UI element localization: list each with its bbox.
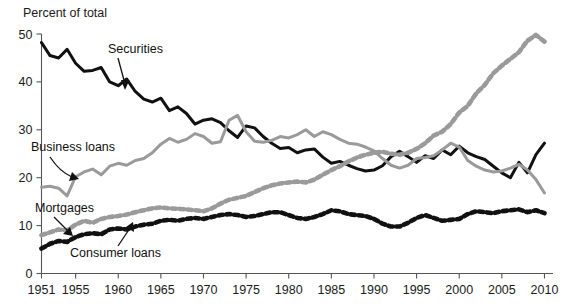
- series-label-consumer-loans: Consumer loans: [70, 246, 161, 260]
- x-tick-label: 1995: [403, 283, 431, 297]
- x-tick-label: 2005: [488, 283, 516, 297]
- x-tick-label: 1975: [232, 283, 260, 297]
- y-tick-label: 30: [19, 123, 33, 137]
- x-tick-label: 1980: [275, 283, 303, 297]
- y-tick-label: 40: [19, 75, 33, 89]
- chart-background: [0, 0, 568, 308]
- y-axis-title: Percent of total: [23, 6, 107, 20]
- series-label-securities: Securities: [108, 42, 163, 56]
- series-label-business-loans: Business loans: [31, 140, 115, 154]
- x-tick-label: 1960: [104, 283, 132, 297]
- y-tick-label: 10: [19, 219, 33, 233]
- series-label-mortgages: Mortgages: [35, 201, 94, 215]
- chart-container: 01020304050 1951195519601965197019751980…: [0, 0, 568, 308]
- y-tick-label: 0: [26, 267, 33, 281]
- x-tick-label: 1990: [360, 283, 388, 297]
- x-tick-label: 1970: [190, 283, 218, 297]
- x-tick-label: 1965: [147, 283, 175, 297]
- x-tick-label: 2010: [531, 283, 559, 297]
- x-tick-label: 2000: [445, 283, 473, 297]
- y-tick-label: 20: [19, 171, 33, 185]
- line-chart: 01020304050 1951195519601965197019751980…: [0, 0, 568, 308]
- y-tick-label: 50: [19, 28, 33, 42]
- x-tick-label: 1951: [28, 283, 56, 297]
- x-tick-label: 1955: [62, 283, 90, 297]
- x-tick-label: 1985: [317, 283, 345, 297]
